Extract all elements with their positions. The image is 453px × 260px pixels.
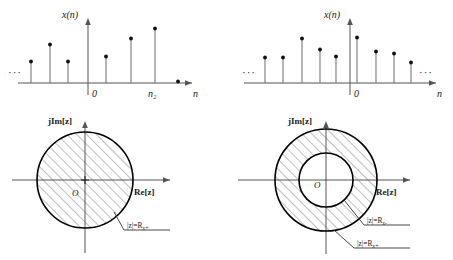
- origin-label: O: [72, 188, 79, 198]
- boundary-label-subscript: x+: [372, 243, 379, 249]
- stem-dot: [176, 80, 180, 84]
- y-axis-label: x(n): [323, 9, 341, 21]
- boundary-label-text: |z|=R: [367, 216, 383, 225]
- boundary-label-subscript: x+: [142, 225, 149, 231]
- origin-label: 0: [92, 88, 97, 99]
- panel-left-roc: jIm[z] Re[z] O |z|=Rx+: [0, 108, 226, 260]
- imag-axis-arrow: [82, 121, 88, 128]
- stem-dot: [104, 55, 108, 59]
- stem-dot: [392, 52, 396, 56]
- stem-dot: [409, 61, 413, 65]
- real-axis-label: Re[z]: [134, 187, 154, 197]
- marker-label-n2: n₂: [148, 88, 157, 99]
- y-axis-arrow: [347, 18, 353, 25]
- left-ellipsis: ···: [242, 66, 256, 78]
- stem-dot: [66, 60, 70, 64]
- origin-label: O: [314, 180, 321, 190]
- x-axis-label: n: [437, 88, 442, 99]
- stem-dot: [374, 50, 378, 54]
- boundary-label-subscript: x-: [382, 220, 387, 226]
- boundary-label-text: |z|=R: [127, 221, 143, 230]
- real-axis-label: Re[z]: [376, 187, 396, 197]
- real-axis-arrow: [163, 177, 170, 183]
- panel-left-sequence: ··· x(n) n 0 n₂: [0, 0, 226, 108]
- stem-dot: [355, 36, 359, 40]
- origin-label: 0: [354, 88, 359, 99]
- boundary-label-rx-plus: |z|=Rx+: [127, 221, 149, 231]
- y-axis-arrow: [85, 18, 91, 25]
- stem-dot: [29, 60, 33, 64]
- stem-group: [29, 27, 180, 84]
- x-axis-arrow: [429, 80, 436, 86]
- stem-dot: [318, 48, 322, 52]
- stem-dot: [334, 55, 338, 59]
- panel-right-roc: O jIm[z] Re[z] |z|=Rx- |z|=Rx+: [226, 108, 453, 260]
- stem-dot: [153, 27, 157, 31]
- panel-right-sequence: ··· ··· x(n) n 0: [226, 0, 453, 108]
- boundary-label-text: |z|=R: [357, 239, 373, 248]
- figure-root: ··· x(n) n 0 n₂: [0, 0, 453, 260]
- x-axis-arrow: [185, 80, 192, 86]
- stem-dot: [281, 56, 285, 60]
- left-ellipsis: ···: [8, 66, 22, 78]
- stem-dot: [263, 56, 267, 60]
- right-ellipsis: ···: [419, 66, 433, 78]
- y-axis-label: x(n): [61, 9, 79, 21]
- stem-group: [263, 36, 413, 83]
- stem-dot: [129, 37, 133, 41]
- x-axis-label: n: [193, 88, 198, 99]
- imag-axis-label: jIm[z]: [287, 116, 312, 126]
- stem-dot: [48, 43, 52, 47]
- imag-axis-label: jIm[z]: [47, 116, 72, 126]
- stem-dot: [300, 37, 304, 41]
